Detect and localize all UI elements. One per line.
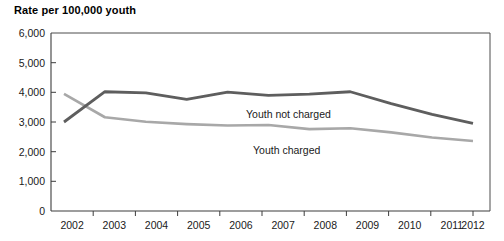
x-tick-label-2009: 2009 — [356, 219, 380, 231]
x-tick-label-2007: 2007 — [271, 219, 295, 231]
x-tick-label-2002: 2002 — [60, 219, 84, 231]
y-tick-label-6000: 6,000 — [19, 27, 45, 39]
x-tick-label-2010: 2010 — [398, 219, 422, 231]
series-annotations: Youth not charged Youth charged — [246, 108, 331, 156]
plot-frame — [51, 33, 490, 211]
y-tick-label-0: 0 — [39, 205, 45, 217]
y-tick-label-3000: 3,000 — [19, 116, 45, 128]
y-tick-label-1000: 1,000 — [19, 175, 45, 187]
x-tick-label-2003: 2003 — [103, 219, 127, 231]
series-label-youth-charged: Youth charged — [253, 144, 320, 156]
plot-box-top-right — [51, 33, 490, 211]
x-tick-label-2011: 2011 — [441, 219, 464, 231]
x-tick-label-2008: 2008 — [314, 219, 338, 231]
x-tick-label-2006: 2006 — [229, 219, 253, 231]
x-axis-tick-labels: 2002 2003 2004 2005 2006 2007 2008 2009 … — [60, 219, 484, 231]
x-tick-label-2012: 2012 — [461, 219, 485, 231]
plot-area: 0 1,000 2,000 3,000 4,000 5,000 6,000 — [0, 0, 504, 241]
chart-figure: Rate per 100,000 youth 0 1,000 2,000 3,0… — [0, 0, 504, 241]
line-chart-svg: 0 1,000 2,000 3,000 4,000 5,000 6,000 — [0, 0, 504, 241]
y-axis-ticks — [51, 63, 56, 182]
x-axis-ticks — [93, 211, 473, 216]
x-tick-label-2005: 2005 — [187, 219, 211, 231]
y-tick-label-5000: 5,000 — [19, 57, 45, 69]
series-label-youth-not-charged: Youth not charged — [246, 108, 331, 120]
y-tick-label-2000: 2,000 — [19, 146, 45, 158]
y-tick-label-4000: 4,000 — [19, 86, 45, 98]
y-axis-tick-labels: 0 1,000 2,000 3,000 4,000 5,000 6,000 — [19, 27, 45, 217]
x-tick-label-2004: 2004 — [145, 219, 169, 231]
